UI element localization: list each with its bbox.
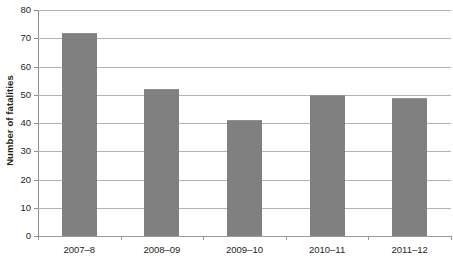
bar-slot (310, 10, 345, 236)
x-axis-label: 2009–10 (203, 243, 286, 256)
y-tick-label: 50 (20, 88, 31, 101)
x-axis-label: 2011–12 (368, 243, 451, 256)
y-axis-title: Number of fatalities (0, 0, 18, 240)
y-tick-label: 30 (20, 144, 31, 157)
x-tick-mark (203, 236, 204, 240)
bar[interactable] (144, 89, 179, 236)
y-tick-70: 70 (0, 38, 38, 39)
y-tick-label: 0 (26, 229, 31, 242)
y-tick-label: 20 (20, 173, 31, 186)
y-tick-10: 10 (0, 208, 38, 209)
gridline-0: 0 (38, 236, 451, 237)
x-axis-label: 2010–11 (286, 243, 369, 256)
bar-slot (227, 10, 262, 236)
y-tick-50: 50 (0, 95, 38, 96)
bar[interactable] (62, 33, 97, 236)
bar[interactable] (227, 120, 262, 236)
x-tick-mark (451, 236, 452, 240)
x-tick-mark (38, 236, 39, 240)
bar[interactable] (392, 98, 427, 236)
bar-slot (144, 10, 179, 236)
y-tick-label: 40 (20, 116, 31, 129)
y-tick-label: 10 (20, 201, 31, 214)
x-tick-mark (121, 236, 122, 240)
bar-slot (62, 10, 97, 236)
y-tick-40: 40 (0, 123, 38, 124)
bar-slot (392, 10, 427, 236)
y-tick-30: 30 (0, 151, 38, 152)
plot-area: 01020304050607080 (38, 10, 451, 236)
y-tick-0: 0 (0, 236, 38, 237)
x-axis-label: 2007–8 (38, 243, 121, 256)
bars-layer (38, 10, 451, 236)
x-axis-label: 2008–09 (121, 243, 204, 256)
y-tick-label: 70 (20, 31, 31, 44)
bar[interactable] (310, 95, 345, 236)
bar-chart: Number of fatalities 01020304050607080 2… (0, 0, 453, 266)
x-axis-labels: 2007–82008–092009–102010–112011–12 (38, 239, 451, 259)
y-tick-80: 80 (0, 10, 38, 11)
x-tick-mark (368, 236, 369, 240)
x-tick-mark (286, 236, 287, 240)
y-tick-label: 80 (20, 3, 31, 16)
y-tick-20: 20 (0, 180, 38, 181)
y-tick-label: 60 (20, 60, 31, 73)
y-tick-60: 60 (0, 67, 38, 68)
